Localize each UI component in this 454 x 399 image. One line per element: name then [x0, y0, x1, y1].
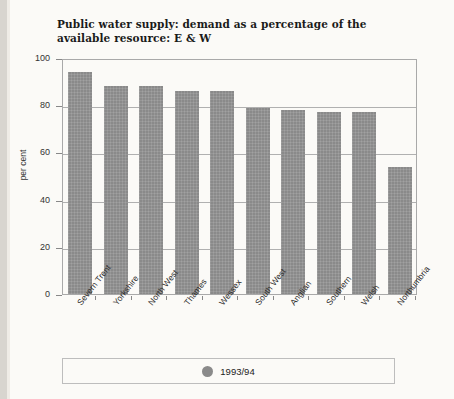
- plot-area: [63, 60, 416, 294]
- x-tick-mark-7: [344, 296, 345, 300]
- page-left-edge-inner: [7, 0, 10, 399]
- page-background: Public water supply: demand as a percent…: [0, 0, 454, 399]
- x-tick-mark-6: [308, 296, 309, 300]
- bar-north-west: [139, 86, 163, 294]
- y-tick-label-100: 100: [20, 53, 50, 63]
- y-tick-label-40: 40: [20, 195, 50, 205]
- y-tick-label-80: 80: [20, 100, 50, 110]
- x-tick-mark-8: [379, 296, 380, 300]
- plot-frame: [62, 59, 417, 295]
- legend-label: 1993/94: [220, 366, 254, 377]
- y-tick-mark-0: [56, 295, 62, 296]
- y-tick-label-20: 20: [20, 242, 50, 252]
- bar-northumbria: [388, 167, 412, 294]
- y-axis-title: per cent: [18, 135, 28, 195]
- x-tick-mark-3: [202, 296, 203, 300]
- x-tick-mark-9: [415, 296, 416, 300]
- y-tick-label-60: 60: [20, 147, 50, 157]
- bar-south-west: [246, 108, 270, 294]
- bar-welsh: [352, 112, 376, 294]
- bar-wessex: [210, 91, 234, 294]
- bar-severn-trent: [68, 72, 92, 294]
- bar-thames: [175, 91, 199, 294]
- legend-items: 1993/94: [63, 359, 394, 383]
- legend: 1993/94: [62, 358, 395, 384]
- legend-marker-circle-icon: [202, 366, 213, 377]
- page-left-edge: [0, 0, 7, 399]
- y-tick-label-0: 0: [20, 289, 50, 299]
- bar-anglian: [281, 110, 305, 294]
- x-tick-mark-0: [95, 296, 96, 300]
- x-tick-mark-2: [166, 296, 167, 300]
- x-tick-mark-5: [273, 296, 274, 300]
- bar-yorkshire: [104, 86, 128, 294]
- x-tick-mark-1: [131, 296, 132, 300]
- chart-title: Public water supply: demand as a percent…: [57, 17, 417, 45]
- x-tick-mark-4: [237, 296, 238, 300]
- bar-southern: [317, 112, 341, 294]
